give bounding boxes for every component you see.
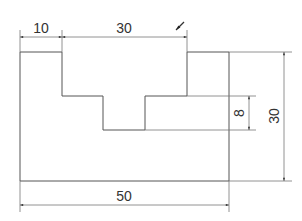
dimension-label-10: 10: [33, 20, 49, 36]
dimension-label-8: 8: [231, 109, 247, 117]
dimension-label-50: 50: [116, 188, 132, 204]
dimension-label-30-horizontal: 30: [116, 20, 132, 36]
technical-drawing: 10 30 8 30 50: [0, 0, 302, 221]
dimension-label-30-vertical: 30: [266, 108, 282, 124]
view-direction-arrow-icon: [176, 22, 184, 30]
part-outline: [20, 52, 229, 181]
